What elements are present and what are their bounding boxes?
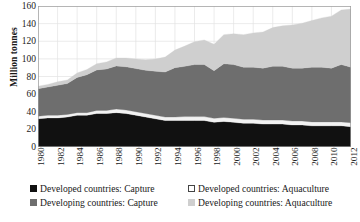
legend-item-label: Developed countries: Capture bbox=[40, 183, 155, 194]
legend-swatch-icon bbox=[188, 199, 195, 206]
x-tick-label: 1988 bbox=[116, 147, 126, 165]
y-tick-label: 160 bbox=[22, 1, 36, 11]
x-tick-label: 2002 bbox=[252, 147, 262, 165]
x-tick-label: 1996 bbox=[194, 147, 204, 165]
x-tick-label: 1990 bbox=[135, 147, 145, 165]
y-tick-label: 100 bbox=[22, 54, 36, 64]
y-tick-label: 140 bbox=[22, 19, 36, 29]
y-tick-label: 40 bbox=[27, 107, 37, 117]
legend-item[interactable]: Developed countries: Capture bbox=[30, 183, 155, 194]
legend-item-label: Developing countries: Aquaculture bbox=[198, 197, 332, 208]
legend-item[interactable]: Developing countries: Aquaculture bbox=[188, 197, 332, 208]
x-tick-label: 1986 bbox=[96, 147, 106, 165]
y-tick-label: 20 bbox=[27, 124, 37, 134]
x-tick-label: 1980 bbox=[37, 147, 47, 165]
x-tick-label: 2000 bbox=[233, 147, 243, 165]
x-tick-label: 2006 bbox=[292, 147, 302, 165]
legend-swatch-icon bbox=[30, 185, 37, 192]
plot-svg bbox=[38, 6, 351, 147]
y-tick-label: 120 bbox=[22, 36, 36, 46]
legend-swatch-icon bbox=[30, 199, 37, 206]
chart-legend: Developed countries: CaptureDeveloping c… bbox=[0, 183, 355, 222]
x-tick-label: 1998 bbox=[213, 147, 223, 165]
y-tick-label: 60 bbox=[27, 89, 37, 99]
x-tick-label: 2004 bbox=[272, 147, 282, 165]
y-axis-tick-labels: 160140120100806040200 bbox=[12, 0, 36, 150]
legend-item-label: Developed countries: Aquaculture bbox=[198, 183, 329, 194]
x-tick-label: 2008 bbox=[311, 147, 321, 165]
x-tick-label: 2012 bbox=[350, 147, 360, 165]
x-tick-label: 1992 bbox=[155, 147, 165, 165]
legend-item[interactable]: Developing countries: Capture bbox=[30, 197, 158, 208]
plot-area bbox=[38, 6, 351, 147]
legend-item[interactable]: Developed countries: Aquaculture bbox=[188, 183, 329, 194]
legend-item-label: Developing countries: Capture bbox=[40, 197, 158, 208]
y-tick-label: 80 bbox=[27, 72, 37, 82]
x-axis-tick-labels: 1980198219841986198819901992199419961998… bbox=[38, 147, 351, 179]
x-tick-label: 1982 bbox=[57, 147, 67, 165]
x-tick-label: 1994 bbox=[174, 147, 184, 165]
legend-swatch-icon bbox=[188, 185, 195, 192]
x-tick-label: 1984 bbox=[76, 147, 86, 165]
x-tick-label: 2010 bbox=[331, 147, 341, 165]
